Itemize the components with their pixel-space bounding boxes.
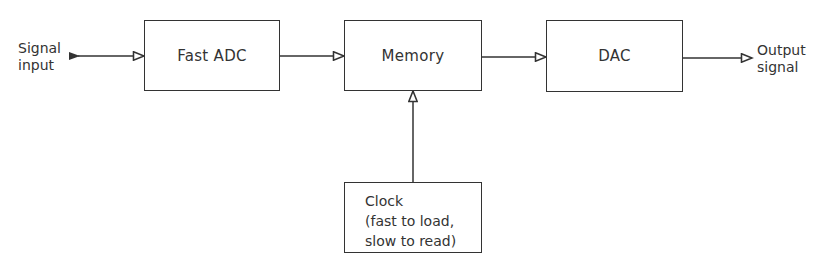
clock-desc-line-1: (fast to load, bbox=[365, 211, 456, 231]
memory-label: Memory bbox=[345, 47, 481, 65]
memory-block: Memory bbox=[344, 20, 482, 91]
signal-input-line-2: input bbox=[18, 57, 61, 74]
clock-title: Clock bbox=[365, 191, 456, 211]
output-signal-label: Output signal bbox=[757, 42, 806, 76]
clock-desc-line-2: slow to read) bbox=[365, 231, 456, 251]
signal-input-line-1: Signal bbox=[18, 40, 61, 57]
fast-adc-label: Fast ADC bbox=[145, 47, 279, 65]
output-signal-line-1: Output bbox=[757, 42, 806, 59]
dac-block: DAC bbox=[546, 20, 683, 92]
output-signal-line-2: signal bbox=[757, 59, 806, 76]
fast-adc-block: Fast ADC bbox=[144, 20, 280, 91]
clock-label: Clock (fast to load, slow to read) bbox=[365, 191, 456, 251]
dac-label: DAC bbox=[547, 47, 682, 65]
clock-block: Clock (fast to load, slow to read) bbox=[344, 182, 482, 253]
signal-input-label: Signal input bbox=[18, 40, 61, 74]
